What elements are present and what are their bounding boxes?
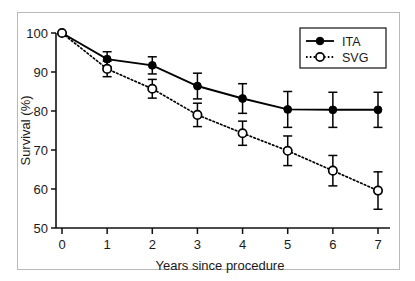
y-axis-tick-label: 80 bbox=[34, 104, 48, 119]
x-axis-tick-label: 0 bbox=[58, 237, 65, 252]
data-point-ita bbox=[148, 61, 156, 69]
legend-label: SVG bbox=[342, 51, 368, 65]
x-axis-tick-label: 6 bbox=[329, 237, 336, 252]
data-point-svg bbox=[58, 29, 66, 37]
data-point-ita bbox=[374, 106, 382, 114]
data-point-ita bbox=[194, 82, 202, 90]
y-axis-tick-label: 70 bbox=[34, 143, 48, 158]
legend-marker-filled-circle-icon bbox=[316, 37, 324, 45]
legend-label: ITA bbox=[342, 35, 361, 49]
data-point-ita bbox=[329, 106, 337, 114]
y-axis-tick-label: 90 bbox=[34, 65, 48, 80]
y-axis-tick-label: 60 bbox=[34, 182, 48, 197]
data-point-svg bbox=[193, 111, 201, 119]
x-axis-tick-label: 7 bbox=[374, 237, 381, 252]
figure-container: 506070809010001234567Years since procedu… bbox=[0, 0, 415, 281]
x-axis-tick-label: 4 bbox=[239, 237, 246, 252]
x-axis-tick-label: 2 bbox=[149, 237, 156, 252]
data-point-svg bbox=[329, 166, 337, 174]
data-point-svg bbox=[103, 65, 111, 73]
survival-curve-chart: 506070809010001234567Years since procedu… bbox=[0, 0, 415, 281]
x-axis-tick-label: 3 bbox=[194, 237, 201, 252]
data-point-svg bbox=[284, 147, 292, 155]
data-point-svg bbox=[148, 85, 156, 93]
data-point-svg bbox=[374, 186, 382, 194]
x-axis-tick-label: 5 bbox=[284, 237, 291, 252]
data-point-svg bbox=[238, 129, 246, 137]
legend-marker-open-circle-icon bbox=[316, 53, 324, 61]
data-point-ita bbox=[239, 95, 247, 103]
y-axis-tick-label: 50 bbox=[34, 221, 48, 236]
x-axis-tick-label: 1 bbox=[104, 237, 111, 252]
x-axis-title: Years since procedure bbox=[156, 258, 285, 273]
y-axis-tick-label: 100 bbox=[26, 26, 48, 41]
data-point-ita bbox=[284, 106, 292, 114]
y-axis-title: Survival (%) bbox=[18, 95, 33, 165]
